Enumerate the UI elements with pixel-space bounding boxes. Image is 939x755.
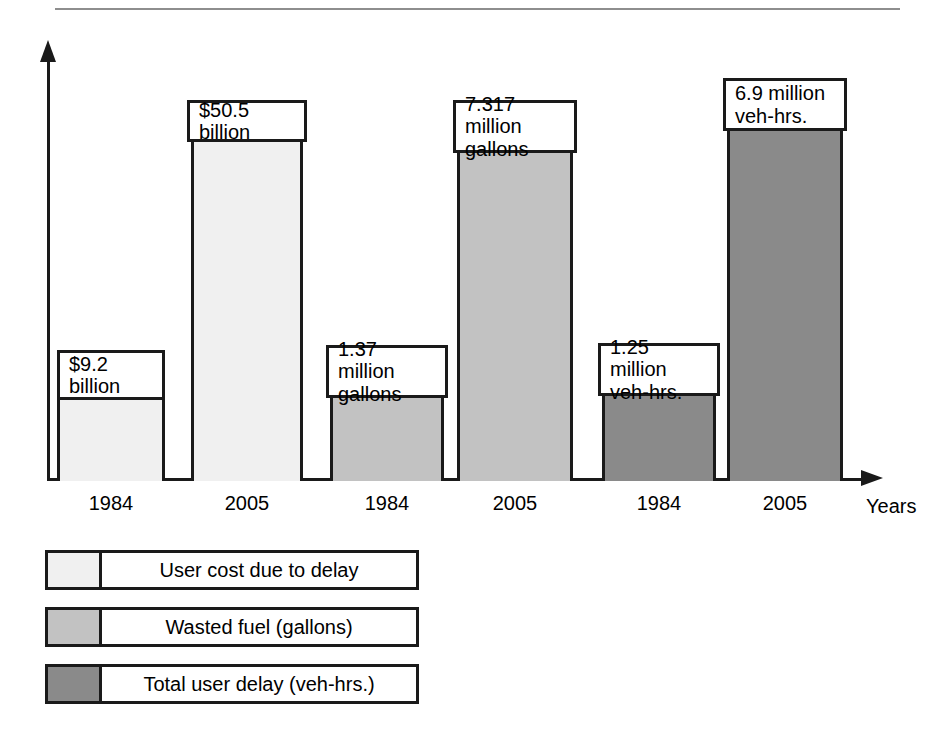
- bar-1-value-label: $9.2 billion: [57, 350, 165, 400]
- legend-item-total-delay: Total user delay (veh-hrs.): [45, 664, 419, 704]
- bar-1: [57, 397, 165, 481]
- x-tick-label-2: 2005: [191, 492, 303, 515]
- bar-4: [457, 150, 573, 481]
- x-tick-label-1: 1984: [57, 492, 165, 515]
- bar-6: [727, 128, 843, 481]
- legend-swatch-wasted-fuel: [45, 607, 102, 647]
- legend-swatch-total-delay: [45, 664, 102, 704]
- bar-2-value-label: $50.5 billion: [187, 100, 307, 142]
- bar-chart-figure: $9.2 billion $50.5 billion 1.37 million …: [0, 0, 939, 755]
- x-tick-label-4: 2005: [457, 492, 573, 515]
- y-axis-line: [47, 58, 50, 481]
- bar-3-value-label: 1.37 million gallons: [326, 345, 448, 398]
- bar-3: [330, 395, 444, 481]
- legend-label-user-cost: User cost due to delay: [102, 550, 419, 590]
- x-axis-arrow-icon: [861, 470, 883, 486]
- bar-6-value-label: 6.9 million veh-hrs.: [723, 78, 847, 131]
- bar-2: [191, 139, 303, 481]
- x-tick-label-3: 1984: [330, 492, 444, 515]
- bar-5-value-label: 1.25 million veh-hrs.: [598, 343, 720, 396]
- x-tick-label-5: 1984: [602, 492, 716, 515]
- legend-item-user-cost: User cost due to delay: [45, 550, 419, 590]
- y-axis-arrow-icon: [40, 40, 56, 62]
- x-tick-label-6: 2005: [727, 492, 843, 515]
- legend-label-wasted-fuel: Wasted fuel (gallons): [102, 607, 419, 647]
- legend-label-total-delay: Total user delay (veh-hrs.): [102, 664, 419, 704]
- legend-swatch-user-cost: [45, 550, 102, 590]
- bar-4-value-label: 7.317 million gallons: [453, 100, 577, 153]
- x-axis-title: Years: [866, 495, 916, 518]
- bar-5: [602, 393, 716, 481]
- legend-item-wasted-fuel: Wasted fuel (gallons): [45, 607, 419, 647]
